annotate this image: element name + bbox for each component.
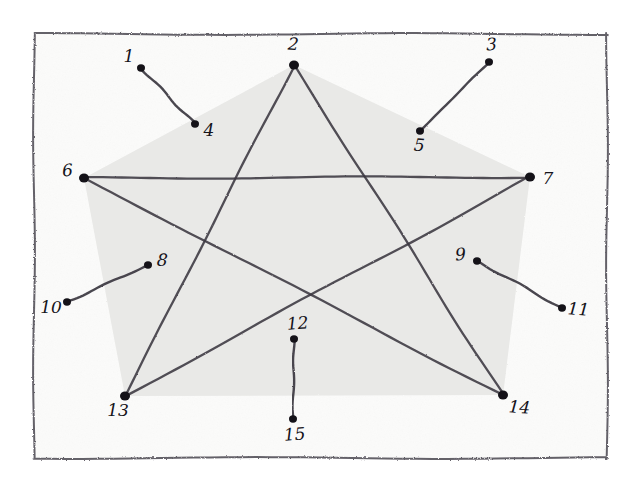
point-label-5: 5: [413, 135, 425, 156]
point-dot-11[interactable]: [558, 304, 566, 311]
figure-canvas: 123456789101112131415: [0, 0, 635, 487]
point-dot-12[interactable]: [290, 335, 298, 342]
point-label-11: 11: [567, 298, 590, 319]
point-label-8: 8: [156, 250, 168, 271]
point-dot-14[interactable]: [498, 390, 508, 399]
point-dot-3[interactable]: [485, 58, 493, 65]
point-dot-2[interactable]: [289, 60, 299, 69]
point-dot-8[interactable]: [144, 261, 152, 268]
point-dot-7[interactable]: [525, 172, 535, 181]
point-dot-15[interactable]: [289, 415, 297, 422]
point-label-1: 1: [124, 46, 135, 66]
point-label-10: 10: [40, 297, 62, 317]
point-label-2: 2: [286, 34, 299, 55]
point-label-15: 15: [283, 423, 306, 444]
point-label-12: 12: [286, 312, 309, 333]
point-dot-10[interactable]: [63, 298, 71, 305]
point-label-6: 6: [61, 160, 73, 181]
point-dot-6[interactable]: [79, 173, 89, 182]
point-dot-1[interactable]: [137, 64, 145, 71]
point-dot-4[interactable]: [191, 120, 199, 127]
point-dot-9[interactable]: [473, 257, 481, 264]
point-label-3: 3: [485, 34, 497, 55]
point-label-13: 13: [107, 400, 129, 420]
point-label-4: 4: [203, 120, 215, 140]
point-label-7: 7: [543, 168, 554, 188]
point-label-14: 14: [508, 396, 531, 417]
point-dot-5[interactable]: [416, 127, 424, 134]
point-label-9: 9: [454, 244, 466, 265]
star-diagram-svg: 123456789101112131415: [0, 0, 635, 487]
